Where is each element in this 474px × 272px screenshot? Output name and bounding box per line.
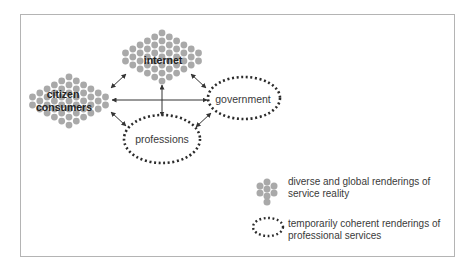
legend-item-dot-cluster: diverse and global renderings of service… [288,176,430,200]
arrow-professions-government [196,113,211,127]
legend-dot-cluster-icon [257,179,278,206]
citizen-label-line2: consumers [36,102,92,113]
professions-label: professions [135,134,189,145]
arrow-citizen-internet [111,74,126,88]
legend-item-dotted-ellipse-line1: temporarily coherent renderings of [288,218,440,230]
legend-item-dot-cluster-line1: diverse and global renderings of [288,176,430,188]
legend-item-dot-cluster-line2: service reality [288,188,430,200]
citizen-label-line1: citizen [47,89,80,100]
internet-label: internet [144,55,183,66]
arrow-internet-government [191,74,206,88]
legend-item-dotted-ellipse: temporarily coherent renderings of profe… [288,218,440,242]
legend-item-dotted-ellipse-line2: professional services [288,230,440,242]
government-label: government [215,94,270,105]
arrow-citizen-professions [111,112,126,126]
legend-dotted-ellipse-icon [253,218,283,236]
